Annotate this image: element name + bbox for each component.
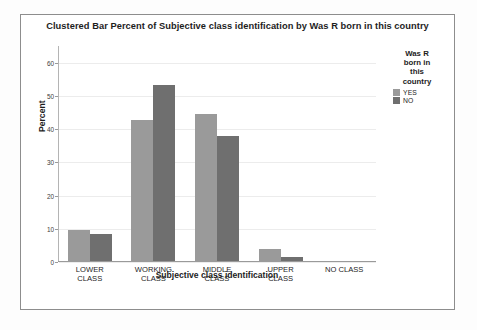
legend-item: NO	[393, 97, 453, 104]
bar	[131, 120, 153, 261]
legend-items: YESNO	[381, 89, 453, 104]
bar	[153, 85, 175, 261]
y-tick-mark	[55, 63, 58, 64]
y-tick-mark	[55, 129, 58, 130]
y-tick-label: 20	[47, 192, 54, 199]
legend-swatch-icon	[393, 89, 400, 96]
y-tick-mark	[55, 96, 58, 97]
legend: Was R born in this country YESNO	[381, 49, 453, 105]
y-tick-label: 40	[47, 126, 54, 133]
y-tick-mark	[55, 162, 58, 163]
y-tick-label: 10	[47, 225, 54, 232]
plot-area: 0102030405060 LOWER CLASSWORKING CLASSMI…	[58, 46, 376, 262]
gridline	[59, 129, 376, 130]
bar	[90, 234, 112, 261]
gridline	[59, 96, 376, 97]
legend-title: Was R born in this country	[381, 49, 453, 86]
chart-frame: Clustered Bar Percent of Subjective clas…	[20, 14, 455, 310]
y-tick-mark	[55, 196, 58, 197]
bar	[259, 249, 281, 261]
legend-label: NO	[403, 97, 413, 104]
y-tick-label: 0	[50, 259, 54, 266]
legend-swatch-icon	[393, 97, 400, 104]
bar	[195, 114, 217, 261]
bar	[281, 257, 303, 261]
y-tick-label: 50	[47, 92, 54, 99]
chart-title: Clustered Bar Percent of Subjective clas…	[21, 21, 454, 31]
y-tick-mark	[55, 262, 58, 263]
gridline	[59, 63, 376, 64]
chart-page: Clustered Bar Percent of Subjective clas…	[0, 0, 477, 330]
y-tick-mark	[55, 229, 58, 230]
bar	[68, 230, 90, 261]
x-axis-title: Subjective class identification	[58, 270, 376, 280]
gridline	[59, 262, 376, 263]
y-tick-label: 30	[47, 159, 54, 166]
bar	[217, 136, 239, 261]
legend-item: YES	[393, 89, 453, 96]
legend-label: YES	[403, 89, 417, 96]
y-axis-title: Percent	[37, 100, 47, 132]
y-tick-label: 60	[47, 59, 54, 66]
